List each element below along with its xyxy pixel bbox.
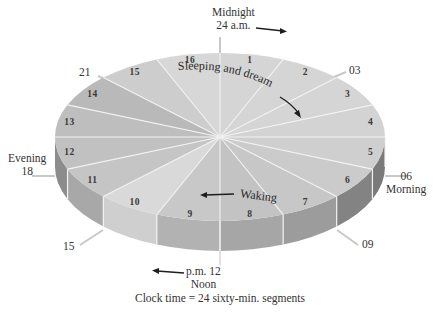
- segment-number-3: 3: [345, 89, 350, 99]
- segment-number-14: 14: [87, 89, 98, 99]
- evening-title: Evening: [8, 152, 46, 165]
- segment-number-13: 13: [64, 117, 75, 127]
- segment-number-2: 2: [303, 67, 308, 77]
- segment-number-12: 12: [64, 147, 75, 157]
- segment-number-6: 6: [345, 175, 350, 185]
- segment-number-5: 5: [368, 147, 373, 157]
- hour-09-label: 09: [362, 238, 374, 251]
- hour-03-label: 03: [349, 64, 361, 77]
- midnight-label: Midnight 24 a.m.: [212, 6, 255, 32]
- segment-number-10: 10: [129, 197, 140, 207]
- hour-18-time: 18: [8, 165, 46, 178]
- noon-arrow-icon: [152, 268, 184, 274]
- segment-number-8: 8: [247, 209, 252, 219]
- clock-tick: [337, 230, 358, 245]
- midnight-time: 24 a.m.: [212, 19, 255, 32]
- noon-time: p.m. 12: [186, 265, 221, 278]
- clock-tick: [80, 230, 103, 245]
- hour-21-label: 21: [79, 66, 91, 79]
- midnight-title: Midnight: [212, 6, 255, 19]
- segment-number-4: 4: [368, 117, 373, 127]
- morning-label: 06 Morning: [386, 170, 426, 196]
- midnight-arrow-icon: [256, 28, 287, 34]
- hour-15-label: 15: [63, 240, 75, 253]
- segment-number-7: 7: [303, 197, 308, 207]
- segment-number-11: 11: [87, 175, 97, 185]
- evening-label: Evening 18: [8, 152, 46, 178]
- diagram-caption: Clock time = 24 sixty-min. segments: [0, 292, 440, 304]
- noon-label: p.m. 12 Noon: [186, 265, 221, 291]
- sleep-cycle-diagram: 12345678910111213141516 Sleeping and dre…: [0, 0, 440, 315]
- segment-number-15: 15: [129, 67, 140, 77]
- segment-number-9: 9: [187, 209, 192, 219]
- hour-06-time: 06: [386, 170, 426, 183]
- segment-number-1: 1: [247, 55, 252, 65]
- morning-title: Morning: [386, 183, 426, 196]
- noon-title: Noon: [186, 278, 221, 291]
- segment-dividers: [55, 53, 385, 221]
